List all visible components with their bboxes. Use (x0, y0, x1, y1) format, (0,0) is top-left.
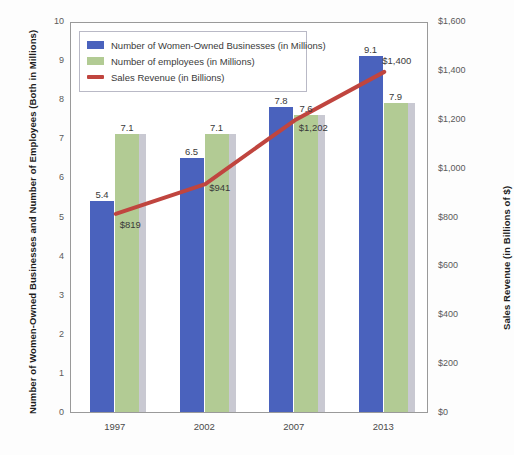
data-label-businesses: 5.4 (82, 190, 122, 200)
y-tick-label-left: 8 (59, 95, 64, 104)
y-tick-label-right: $200 (438, 359, 458, 368)
y-tick-label-right: $400 (438, 310, 458, 319)
y-tick-label-right: $1,000 (438, 164, 466, 173)
y-tick-label-right: $800 (438, 213, 458, 222)
chart-legend: Number of Women-Owned Businesses (in Mil… (79, 31, 307, 92)
data-label-sales-revenue: $1,202 (299, 123, 328, 133)
legend-color-swatch-icon (87, 57, 104, 65)
data-label-sales-revenue: $819 (120, 220, 141, 230)
y-tick-label-right: $1,600 (438, 17, 466, 26)
y-tick-label-left: 9 (59, 56, 64, 65)
x-tick-label-2007: 2007 (264, 421, 324, 432)
data-label-employees: 7.1 (107, 123, 147, 133)
y-tick-label-left: 7 (59, 134, 64, 143)
y-tick-label-left: 3 (59, 291, 64, 300)
y-tick-label-right: $1,200 (438, 115, 466, 124)
data-label-employees: 7.1 (197, 123, 237, 133)
data-label-employees: 7.9 (376, 92, 416, 102)
y-tick-label-right: $0 (438, 408, 448, 417)
legend-item[interactable]: Number of Women-Owned Businesses (in Mil… (87, 37, 299, 53)
y-tick-label-left: 2 (59, 330, 64, 339)
legend-item-label: Sales Revenue (in Billions) (111, 72, 225, 83)
data-label-sales-revenue: $941 (209, 183, 230, 193)
legend-item[interactable]: Number of employees (in Millions) (87, 53, 299, 69)
y-tick-label-right: $1,400 (438, 66, 466, 75)
y-tick-label-left: 4 (59, 252, 64, 261)
y-axis-left-title: Number of Women-Owned Businesses and Num… (27, 30, 38, 414)
data-label-employees: 7.6 (286, 104, 326, 114)
data-label-sales-revenue: $1,400 (382, 56, 411, 66)
revenue-line-path (116, 72, 385, 214)
legend-item[interactable]: Sales Revenue (in Billions) (87, 69, 299, 85)
data-label-businesses: 6.5 (172, 147, 212, 157)
legend-item-label: Number of employees (in Millions) (111, 56, 255, 67)
y-axis-right-title: Sales Revenue (in Billions of $) (501, 186, 512, 330)
x-tick-label-2002: 2002 (174, 421, 234, 432)
y-tick-label-right: $600 (438, 261, 458, 270)
chart-container: Number of Women-Owned Businesses and Num… (0, 0, 514, 455)
x-tick-label-2013: 2013 (353, 421, 413, 432)
y-tick-label-left: 5 (59, 213, 64, 222)
legend-line-swatch-icon (87, 75, 104, 79)
y-tick-label-left: 10 (54, 17, 64, 26)
y-tick-label-left: 0 (59, 408, 64, 417)
legend-item-label: Number of Women-Owned Businesses (in Mil… (111, 40, 326, 51)
legend-color-swatch-icon (87, 41, 104, 49)
y-tick-label-left: 1 (59, 369, 64, 378)
data-label-businesses: 9.1 (351, 45, 391, 55)
y-tick-label-left: 6 (59, 173, 64, 182)
x-tick-label-1997: 1997 (85, 421, 145, 432)
